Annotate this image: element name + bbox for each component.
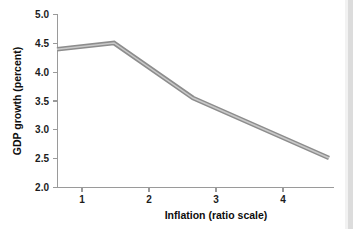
y-axis-title: GDP growth (percent) <box>11 47 23 155</box>
y-tick-label-4-0: 4.0 <box>35 67 49 78</box>
x-tick-label-1: 1 <box>79 194 85 205</box>
data-series-gdp-growth <box>57 43 329 158</box>
x-axis-title: Inflation (ratio scale) <box>165 209 268 221</box>
x-tick-label-2: 2 <box>146 194 152 205</box>
y-tick-label-3-0: 3.0 <box>35 124 49 135</box>
y-tick-label-3-5: 3.5 <box>35 96 49 107</box>
y-tick-label-5-0: 5.0 <box>35 9 49 20</box>
y-axis-ticks <box>53 15 58 188</box>
line-chart: 5.0 4.5 4.0 3.5 3.0 2.5 2.0 1 2 3 4 Infl… <box>0 0 353 229</box>
y-tick-label-2-5: 2.5 <box>35 153 49 164</box>
x-axis-ticks <box>82 188 283 193</box>
x-tick-label-3: 3 <box>213 194 219 205</box>
y-tick-label-2-0: 2.0 <box>35 182 49 193</box>
y-tick-label-4-5: 4.5 <box>35 38 49 49</box>
x-tick-label-4: 4 <box>280 194 286 205</box>
chart-figure: 5.0 4.5 4.0 3.5 3.0 2.5 2.0 1 2 3 4 Infl… <box>0 0 353 229</box>
page-edge-strip <box>348 0 353 229</box>
